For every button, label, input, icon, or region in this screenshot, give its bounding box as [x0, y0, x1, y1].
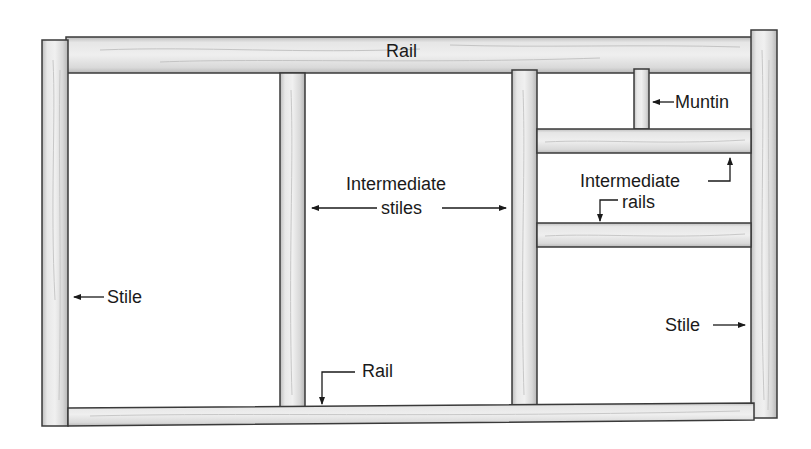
bottom-rail-arrow-icon — [322, 372, 355, 404]
intermediate-rail-1 — [537, 129, 751, 153]
label-muntin: Muntin — [675, 93, 729, 111]
rails-down-arrow-icon — [600, 200, 618, 221]
label-bottom-rail: Rail — [362, 362, 393, 380]
label-right-stile: Stile — [665, 316, 700, 334]
label-left-stile: Stile — [107, 288, 142, 306]
label-intermediate-stiles-line2: stiles — [381, 199, 422, 217]
frame-drawing — [0, 0, 811, 449]
bottom-rail — [68, 403, 754, 426]
label-intermediate-stiles-line1: Intermediate — [346, 175, 446, 193]
right-stile — [751, 30, 777, 418]
label-intermediate-rails-line1: Intermediate — [580, 172, 680, 190]
label-top-rail: Rail — [386, 42, 417, 60]
intermediate-rail-2 — [537, 223, 751, 247]
left-stile — [42, 40, 68, 426]
intermediate-stile-2 — [512, 70, 537, 406]
label-intermediate-rails-line2: rails — [622, 193, 655, 211]
muntin — [634, 69, 649, 129]
face-frame-diagram: Rail Muntin Intermediate stiles Intermed… — [0, 0, 811, 449]
rails-up-arrow-icon — [708, 158, 730, 181]
intermediate-stile-1 — [280, 73, 305, 407]
